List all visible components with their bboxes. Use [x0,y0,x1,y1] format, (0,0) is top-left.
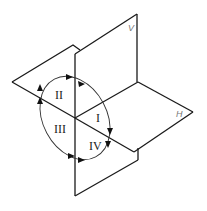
plane-label-V: V [128,23,135,33]
quadrant-label-I: I [96,111,100,125]
quadrant-label-II: II [55,88,63,102]
plane-label-H: H [176,109,183,119]
arrow-icon [107,128,113,135]
quadrant-diagram: II I III IV V H [0,0,207,211]
arrow-icon [66,74,73,80]
quadrant-label-III: III [54,122,66,136]
vertical-plane [75,14,138,196]
quadrant-label-IV: IV [89,139,102,153]
horizontal-plane [12,45,193,152]
arrow-icon [37,97,43,104]
arrow-icon [37,84,43,91]
arrow-icon [78,157,85,163]
